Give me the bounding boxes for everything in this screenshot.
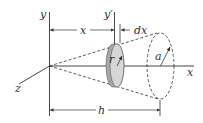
base-radius-label: a	[155, 50, 162, 63]
y-axis-label: y	[39, 8, 47, 21]
h-dimension-label: h	[98, 104, 105, 117]
base-radius-line	[161, 47, 171, 66]
cone-edge-bottom	[50, 66, 159, 99]
z-axis-label: z	[14, 82, 21, 95]
z-axis	[19, 66, 50, 84]
cone-diagram: y z x a r y′ x dx h	[0, 0, 203, 123]
disk-radius-label: r	[109, 53, 115, 66]
y-prime-axis-label: y′	[103, 8, 113, 21]
cone-edge-top	[50, 33, 158, 66]
x-axis-label: x	[187, 66, 194, 79]
x-dimension-label: x	[80, 24, 87, 37]
dx-dimension-label: dx	[134, 24, 148, 37]
